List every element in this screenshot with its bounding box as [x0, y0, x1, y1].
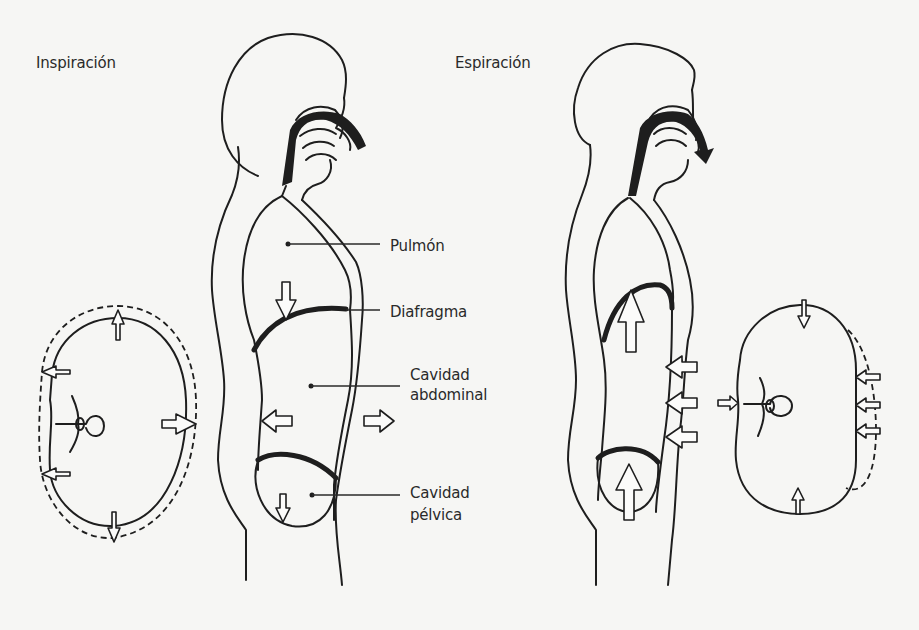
- arrow-left-mid-icon: [856, 398, 880, 412]
- arrow-left-abdomen-lower-icon: [666, 426, 697, 448]
- breathing-diagram: Inspiración Espiración Pulmón Diafragma …: [0, 0, 919, 630]
- arrow-right-back-icon: [718, 396, 738, 410]
- arrow-right-icon: [162, 414, 196, 434]
- arrow-left-upper-icon: [42, 366, 70, 378]
- arrow-up-pelvis-icon: [616, 464, 642, 520]
- inspiration-body: [212, 34, 400, 585]
- arrow-left-upper-icon: [856, 370, 880, 384]
- inspiration-cross-section: [39, 306, 196, 542]
- diagram-drawing: [0, 0, 919, 630]
- expiration-cross-section: [718, 300, 880, 514]
- arrow-right-abdomen-icon: [364, 410, 394, 432]
- arrow-up-icon: [792, 488, 804, 514]
- arrow-left-lower-icon: [42, 468, 70, 480]
- arrow-left-abdomen-icon: [262, 410, 292, 432]
- arrow-left-abdomen-upper-icon: [666, 392, 697, 414]
- arrow-up-icon: [112, 310, 124, 340]
- arrow-down-pelvis-icon: [276, 494, 290, 522]
